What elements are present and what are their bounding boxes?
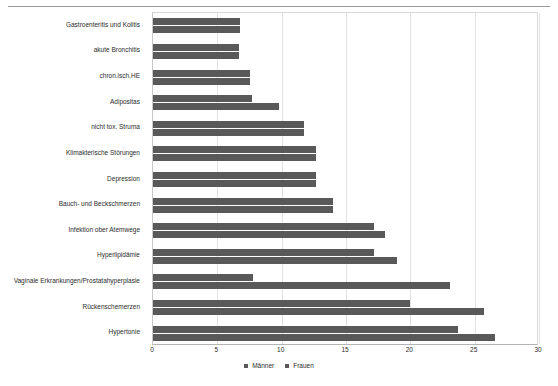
bar-männer bbox=[153, 18, 240, 25]
bar-groups bbox=[153, 13, 537, 344]
bar-frauen bbox=[153, 78, 250, 85]
x-axis-ticks: 051015202530 bbox=[152, 346, 538, 358]
bar-group bbox=[153, 90, 537, 116]
category-label: akute Bronchitis bbox=[94, 46, 140, 54]
x-tick-label: 15 bbox=[341, 346, 348, 353]
category-label: Adipositas bbox=[110, 98, 140, 106]
category-label: Infektion ober Atemwege bbox=[68, 226, 140, 234]
category-label: Depression bbox=[107, 175, 140, 183]
category-label: Rückenschemerzen bbox=[83, 303, 140, 311]
bar-frauen bbox=[153, 231, 385, 238]
bar-group bbox=[153, 295, 537, 321]
x-tick-label: 30 bbox=[534, 346, 541, 353]
bar-frauen bbox=[153, 129, 304, 136]
bar-group bbox=[153, 320, 537, 346]
top-divider bbox=[8, 6, 550, 7]
bar-männer bbox=[153, 146, 316, 153]
bar-group bbox=[153, 269, 537, 295]
bar-frauen bbox=[153, 180, 316, 187]
bar-männer bbox=[153, 274, 253, 281]
bar-frauen bbox=[153, 206, 333, 213]
category-label: Hypertonie bbox=[109, 328, 140, 336]
legend-item: Frauen bbox=[285, 362, 314, 369]
bar-group bbox=[153, 192, 537, 218]
legend-label: Männer bbox=[252, 362, 274, 369]
bar-group bbox=[153, 141, 537, 167]
bar-männer bbox=[153, 249, 374, 256]
category-label: Gastroenteritis und Kolitis bbox=[66, 21, 140, 29]
bar-männer bbox=[153, 172, 316, 179]
plot-area bbox=[152, 12, 538, 345]
bar-group bbox=[153, 167, 537, 193]
x-tick-label: 25 bbox=[470, 346, 477, 353]
bar-frauen bbox=[153, 308, 484, 315]
category-label: Klimakterische Störungen bbox=[66, 149, 140, 157]
category-axis-labels: Gastroenteritis und Kolitisakute Bronchi… bbox=[0, 12, 146, 345]
bar-frauen bbox=[153, 257, 397, 264]
bar-männer bbox=[153, 198, 333, 205]
bar-frauen bbox=[153, 154, 316, 161]
legend-swatch-icon bbox=[285, 364, 289, 368]
bar-frauen bbox=[153, 26, 240, 33]
bar-chart: Gastroenteritis und Kolitisakute Bronchi… bbox=[0, 0, 558, 386]
bar-group bbox=[153, 13, 537, 39]
bar-frauen bbox=[153, 334, 495, 341]
category-label: chron.isch.HE bbox=[100, 72, 140, 80]
bar-frauen bbox=[153, 282, 450, 289]
gridline bbox=[539, 13, 540, 344]
bar-group bbox=[153, 64, 537, 90]
bar-männer bbox=[153, 44, 239, 51]
bar-männer bbox=[153, 300, 410, 307]
bar-männer bbox=[153, 223, 374, 230]
bar-group bbox=[153, 115, 537, 141]
bar-group bbox=[153, 39, 537, 65]
bar-frauen bbox=[153, 52, 239, 59]
x-tick-label: 0 bbox=[150, 346, 154, 353]
legend-label: Frauen bbox=[293, 362, 314, 369]
category-label: Bauch- und Beckschmerzen bbox=[59, 200, 140, 208]
bar-frauen bbox=[153, 103, 279, 110]
bar-männer bbox=[153, 95, 252, 102]
x-tick-label: 5 bbox=[215, 346, 219, 353]
bar-männer bbox=[153, 121, 304, 128]
legend-swatch-icon bbox=[244, 364, 248, 368]
legend-item: Männer bbox=[244, 362, 274, 369]
bar-männer bbox=[153, 326, 458, 333]
category-label: nicht tox. Struma bbox=[91, 123, 140, 131]
category-label: Vaginale Erkrankungen/Prostatahyperplasi… bbox=[14, 277, 140, 285]
category-label: Hyperlipidämie bbox=[97, 251, 140, 259]
bar-group bbox=[153, 244, 537, 270]
chart-legend: MännerFrauen bbox=[0, 362, 558, 369]
bar-männer bbox=[153, 70, 250, 77]
x-tick-label: 20 bbox=[406, 346, 413, 353]
bar-group bbox=[153, 218, 537, 244]
x-tick-label: 10 bbox=[277, 346, 284, 353]
